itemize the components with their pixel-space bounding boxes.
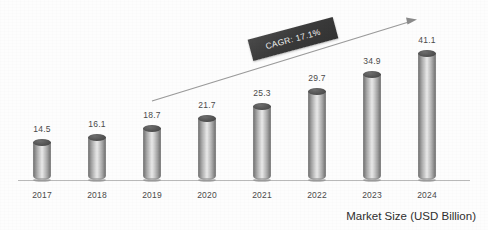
bar-label-2020: 2020 <box>197 190 217 200</box>
bar-2018: 16.1 2018 <box>88 137 106 180</box>
axis-title: Market Size (USD Billion) <box>346 210 476 222</box>
bar-label-2022: 2022 <box>307 190 327 200</box>
cagr-banner: CAGR: 17.1% <box>248 17 339 61</box>
bar-value-2018: 16.1 <box>88 119 105 129</box>
bar-2022: 29.7 2022 <box>308 91 326 180</box>
bar-cylinder <box>198 118 216 180</box>
bar-2019: 18.7 2019 <box>143 128 161 180</box>
bar-cylinder <box>418 53 436 180</box>
bar-2017: 14.5 2017 <box>33 142 51 180</box>
bar-value-2022: 29.7 <box>308 73 325 83</box>
plot-area: 14.5 2017 16.1 2018 18.7 2019 21.7 2020 … <box>0 0 488 230</box>
bar-2024: 41.1 2024 <box>418 53 436 180</box>
bar-2023: 34.9 2023 <box>363 74 381 180</box>
bar-label-2017: 2017 <box>32 190 52 200</box>
bar-cylinder <box>88 137 106 180</box>
bar-label-2018: 2018 <box>87 190 107 200</box>
bar-cylinder <box>253 106 271 180</box>
bar-value-2019: 18.7 <box>143 110 160 120</box>
bar-cylinder <box>33 142 51 180</box>
bar-label-2024: 2024 <box>417 190 437 200</box>
bar-2020: 21.7 2020 <box>198 118 216 180</box>
bar-label-2023: 2023 <box>362 190 382 200</box>
trend-arrow-line <box>0 0 488 230</box>
x-axis-line <box>18 180 470 181</box>
bar-2021: 25.3 2021 <box>253 106 271 180</box>
bar-label-2019: 2019 <box>142 190 162 200</box>
bar-value-2024: 41.1 <box>418 35 435 45</box>
bar-value-2021: 25.3 <box>253 88 270 98</box>
cagr-banner-label: CAGR: 17.1% <box>264 27 321 51</box>
bar-value-2023: 34.9 <box>363 56 380 66</box>
bar-value-2017: 14.5 <box>33 124 50 134</box>
bar-cylinder <box>363 74 381 180</box>
bar-label-2021: 2021 <box>252 190 272 200</box>
bar-cylinder <box>308 91 326 180</box>
chart-container: 14.5 2017 16.1 2018 18.7 2019 21.7 2020 … <box>0 0 488 230</box>
bar-value-2020: 21.7 <box>198 100 215 110</box>
bar-cylinder <box>143 128 161 180</box>
